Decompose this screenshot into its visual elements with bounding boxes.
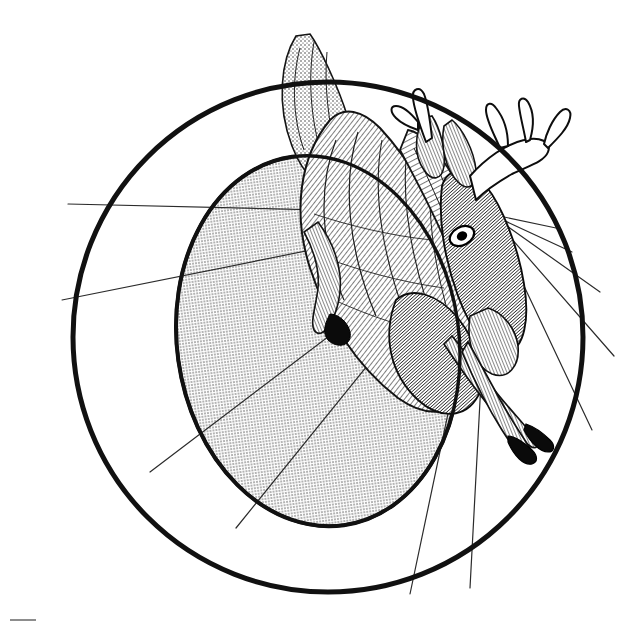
caption-strip <box>0 608 640 624</box>
caption-rule <box>10 619 36 621</box>
figure-root <box>0 0 640 624</box>
figure-canvas <box>0 0 640 624</box>
